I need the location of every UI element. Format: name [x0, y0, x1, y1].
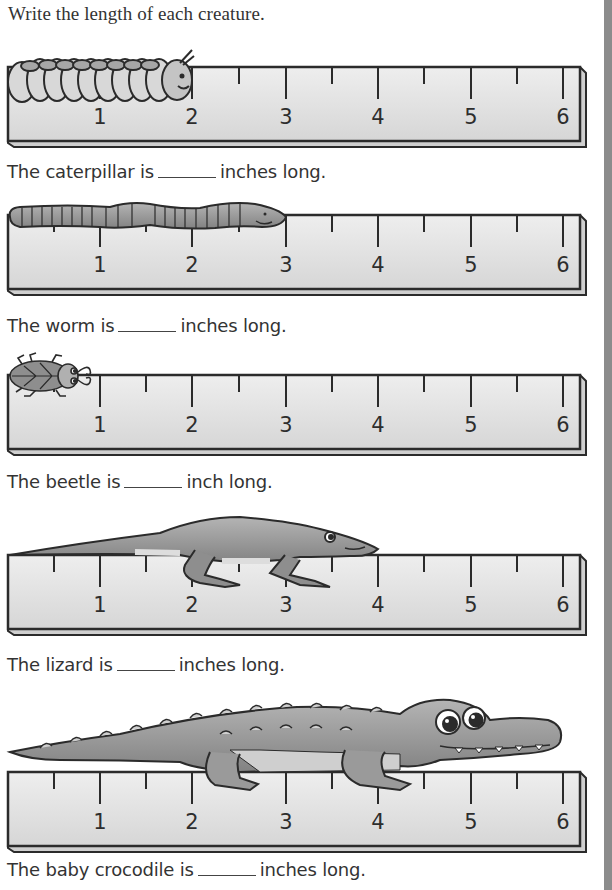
caterpillar-icon [8, 50, 194, 102]
sentence-suffix: inches long. [220, 161, 326, 182]
item-beetle: 1 2 3 4 5 6 The beetle isinch long. [0, 350, 600, 500]
ruler-label-6: 6 [556, 810, 569, 834]
ruler-label-2: 2 [185, 593, 198, 617]
answer-sentence: The worm isinches long. [7, 315, 287, 336]
worm-icon [10, 203, 286, 229]
ruler-label-6: 6 [556, 253, 569, 277]
sentence-suffix: inches long. [260, 859, 366, 880]
ruler-label-6: 6 [556, 593, 569, 617]
sentence-prefix: The caterpillar is [7, 161, 154, 182]
ruler: 1 2 3 4 5 6 [0, 30, 600, 155]
sentence-prefix: The baby crocodile is [7, 859, 194, 880]
ruler-label-1: 1 [93, 105, 106, 129]
worksheet-title: Write the length of each creature. [8, 3, 265, 25]
ruler-label-2: 2 [185, 105, 198, 129]
page-edge-bar [604, 0, 612, 890]
ruler-label-3: 3 [279, 593, 292, 617]
sentence-suffix: inches long. [180, 315, 286, 336]
item-caterpillar: 1 2 3 4 5 6 [0, 30, 600, 190]
ruler: 1 2 3 4 5 6 [0, 195, 600, 305]
ruler-label-2: 2 [185, 253, 198, 277]
ruler: 1 2 3 4 5 6 [0, 690, 600, 855]
ruler: 1 2 3 4 5 6 [0, 350, 600, 460]
ruler-label-4: 4 [371, 593, 384, 617]
ruler: 1 2 3 4 5 6 [0, 505, 600, 640]
sentence-prefix: The worm is [7, 315, 114, 336]
sentence-suffix: inch long. [186, 471, 272, 492]
ruler-label-2: 2 [185, 810, 198, 834]
answer-sentence: The beetle isinch long. [7, 471, 272, 492]
answer-blank-caterpillar[interactable] [158, 163, 216, 178]
ruler-label-3: 3 [279, 105, 292, 129]
ruler-label-6: 6 [556, 105, 569, 129]
ruler-label-5: 5 [464, 810, 477, 834]
ruler-label-1: 1 [93, 253, 106, 277]
ruler-label-3: 3 [279, 810, 292, 834]
answer-sentence: The lizard isinches long. [7, 654, 285, 675]
ruler-label-5: 5 [464, 593, 477, 617]
ruler-label-1: 1 [93, 810, 106, 834]
answer-blank-baby-crocodile[interactable] [198, 861, 256, 876]
ruler-label-3: 3 [279, 253, 292, 277]
ruler-label-5: 5 [464, 105, 477, 129]
ruler-label-6: 6 [556, 413, 569, 437]
answer-blank-worm[interactable] [118, 317, 176, 332]
ruler-label-4: 4 [371, 810, 384, 834]
item-worm: 1 2 3 4 5 6 The worm [0, 195, 600, 345]
ruler-label-3: 3 [279, 413, 292, 437]
answer-sentence: The baby crocodile isinches long. [7, 859, 366, 880]
sentence-suffix: inches long. [179, 654, 285, 675]
item-baby-crocodile: 1 2 3 4 5 6 [0, 690, 600, 890]
ruler-label-5: 5 [464, 253, 477, 277]
ruler-label-4: 4 [371, 253, 384, 277]
ruler-label-1: 1 [93, 593, 106, 617]
answer-blank-lizard[interactable] [117, 656, 175, 671]
ruler-label-4: 4 [371, 105, 384, 129]
answer-sentence: The caterpillar isinches long. [7, 161, 326, 182]
ruler-label-4: 4 [371, 413, 384, 437]
ruler-label-5: 5 [464, 413, 477, 437]
ruler-label-1: 1 [93, 413, 106, 437]
item-lizard: 1 2 3 4 5 6 The lizard isinches long. [0, 505, 600, 685]
sentence-prefix: The lizard is [7, 654, 113, 675]
sentence-prefix: The beetle is [7, 471, 120, 492]
answer-blank-beetle[interactable] [124, 473, 182, 488]
ruler-label-2: 2 [185, 413, 198, 437]
